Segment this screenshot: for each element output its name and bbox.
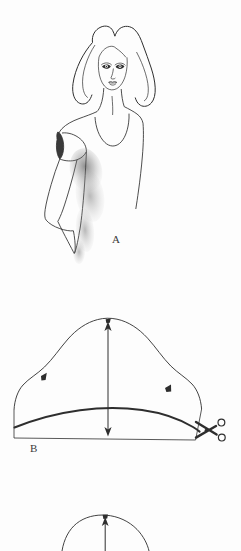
- figure-c-diagram-partial: [0, 0, 241, 551]
- up-arrow-c: [102, 517, 109, 551]
- pattern-page: A: [0, 0, 241, 551]
- sleeve-cap-partial: [62, 514, 149, 551]
